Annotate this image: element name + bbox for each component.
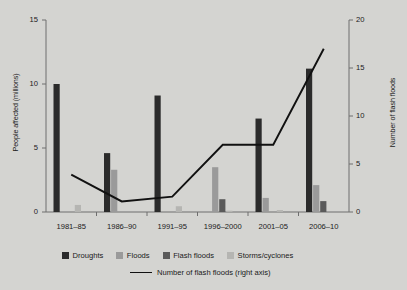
bar-floods xyxy=(111,170,117,212)
bar-flash-floods xyxy=(320,201,326,212)
bar-storms-cyclones xyxy=(277,210,283,212)
bar-droughts xyxy=(306,69,312,212)
bar-storms-cyclones xyxy=(75,205,81,212)
legend-item: Floods xyxy=(116,251,149,260)
bar-droughts xyxy=(104,153,110,212)
line-legend-swatch xyxy=(130,272,152,273)
y-tick-label-right: 15 xyxy=(356,63,378,72)
y-tick-label-left: 10 xyxy=(16,79,38,88)
bar-droughts xyxy=(256,119,262,212)
bar-floods xyxy=(212,167,218,212)
legend-line-label: Number of flash floods (right axis) xyxy=(157,268,271,277)
plot-area xyxy=(0,0,407,290)
bar-floods xyxy=(313,185,319,212)
y-tick-label-left: 5 xyxy=(16,143,38,152)
bar-floods xyxy=(263,198,269,212)
y-tick-label-left: 0 xyxy=(16,207,38,216)
legend-item-label: Droughts xyxy=(73,251,104,260)
y-tick-label-right: 10 xyxy=(356,111,378,120)
bar-storms-cyclones xyxy=(226,211,232,212)
y-tick-label-right: 5 xyxy=(356,159,378,168)
bar-droughts xyxy=(155,96,161,212)
legend-item-label: Flash floods xyxy=(173,251,214,260)
y-tick-label-right: 0 xyxy=(356,207,378,216)
bar-storms-cyclones xyxy=(176,206,182,212)
legend-item: Storms/cyclones xyxy=(227,251,293,260)
y-tick-label-right: 20 xyxy=(356,15,378,24)
x-axis-category-label: 2006–10 xyxy=(290,222,358,231)
chart-container: People affected (millions) Number of fla… xyxy=(0,0,407,290)
legend-bars: DroughtsFloodsFlash floodsStorms/cyclone… xyxy=(62,251,306,260)
legend-line: Number of flash floods (right axis) xyxy=(130,268,271,277)
bar-flash-floods xyxy=(219,199,225,212)
legend-item: Flash floods xyxy=(163,251,214,260)
legend-swatch-icon xyxy=(116,252,123,259)
legend-swatch-icon xyxy=(62,252,69,259)
legend-swatch-icon xyxy=(163,252,170,259)
bar-droughts xyxy=(54,84,60,212)
legend-item: Droughts xyxy=(62,251,103,260)
legend-item-label: Floods xyxy=(127,251,150,260)
legend-item-label: Storms/cyclones xyxy=(238,251,294,260)
y-tick-label-left: 15 xyxy=(16,15,38,24)
legend-swatch-icon xyxy=(227,252,234,259)
